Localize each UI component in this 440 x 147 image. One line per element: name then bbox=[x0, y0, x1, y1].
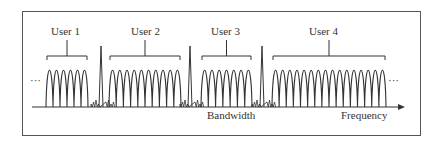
user-4-bracket bbox=[273, 40, 385, 60]
user-2-spectrum bbox=[109, 70, 181, 107]
user-4-label: User 4 bbox=[309, 25, 338, 37]
left-ellipsis: ··· bbox=[30, 74, 41, 86]
frequency-axis-label: Frequency bbox=[341, 109, 387, 121]
user-1-spectrum bbox=[46, 70, 88, 107]
bandwidth-label: Bandwidth bbox=[207, 109, 255, 121]
spectrum-plot bbox=[0, 0, 440, 147]
guard-spike bbox=[99, 46, 103, 107]
user-1-label: User 1 bbox=[51, 25, 80, 37]
user-2-bracket bbox=[110, 40, 180, 60]
axis-arrow-icon bbox=[398, 104, 405, 110]
user-4-spectrum bbox=[272, 70, 386, 107]
user-3-spectrum bbox=[201, 70, 252, 107]
user-3-bracket bbox=[202, 40, 251, 60]
user-3-label: User 3 bbox=[211, 25, 240, 37]
user-1-bracket bbox=[47, 40, 87, 60]
user-2-label: User 2 bbox=[131, 25, 160, 37]
guard-spike bbox=[188, 46, 192, 107]
guard-spike bbox=[260, 46, 264, 107]
right-ellipsis: ··· bbox=[388, 74, 399, 86]
